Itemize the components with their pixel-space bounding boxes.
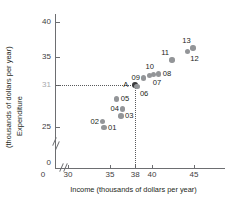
x-axis-tick [194,165,195,169]
y-axis-title-line-2: (thousands of dollars per year) [4,46,13,148]
data-point [134,84,139,89]
data-point-label: 11 [161,49,169,57]
y-axis-tick-label: 40 [33,18,51,26]
y-axis-title: Expenditure (thousands of dollars per ye… [0,0,32,150]
x-axis-tick [68,165,69,169]
data-point-label: 07 [153,79,161,87]
data-point [114,96,119,101]
y-axis-tick-label: 35 [33,53,51,61]
x-axis-title: Income (thousands of dollars per year) [36,185,231,194]
data-point-label: A [123,81,128,89]
data-point-label: 10 [145,63,153,71]
data-point [120,106,125,111]
y-axis-title-line-1: Expenditure [15,96,24,136]
data-point [185,49,190,54]
data-point-label: 05 [121,95,129,103]
data-point [118,113,123,118]
x-axis-tick-label: 0 [32,171,54,179]
data-point-label: 12 [190,55,198,63]
y-axis-tick-label: 31 [33,81,51,89]
vertical-reference-line [135,85,136,167]
x-axis-tick [110,165,111,169]
data-point-label: 08 [163,70,171,78]
x-axis-tick-label: 30 [57,171,79,179]
data-point-label: 06 [140,90,148,98]
data-point [156,71,161,76]
data-point-label: 13 [182,37,190,45]
data-point-label: 02 [90,118,98,126]
y-axis-break-icon [51,136,61,152]
data-point [141,75,146,80]
x-axis-tick [152,165,153,169]
data-point [101,125,106,130]
data-point [190,45,195,50]
y-axis-tick [56,127,60,128]
data-point [169,57,174,62]
y-axis-tick [56,22,60,23]
scatter-plot-figure: Expenditure (thousands of dollars per ye… [0,0,231,201]
data-point-label: 03 [125,112,133,120]
data-point-label: 04 [111,105,119,113]
y-axis-tick-label: 25 [33,123,51,131]
x-axis-tick-label: 40 [141,171,163,179]
data-point-label: 01 [108,124,116,132]
x-axis-tick-label: 35 [99,171,121,179]
y-axis-tick [56,57,60,58]
data-point-label: 09 [132,74,140,82]
x-axis-tick-label: 45 [183,171,205,179]
y-axis-tick-label: 0 [33,159,51,167]
x-axis-line [55,168,225,169]
data-point [100,119,105,124]
